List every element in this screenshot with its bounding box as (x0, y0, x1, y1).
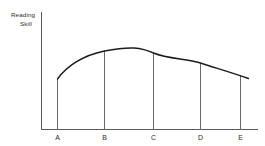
x-tick-label-d: D (198, 134, 203, 141)
x-tick-label-c: C (151, 134, 156, 141)
reading-skill-chart-figure: Reading Skill A B C D E (0, 0, 265, 146)
y-axis-label-line1: Reading (11, 11, 36, 18)
y-axis-label-line2: Skill (20, 20, 32, 27)
x-tick-label-e: E (238, 134, 243, 141)
x-tick-label-a: A (55, 134, 60, 141)
x-tick-label-b: B (102, 134, 107, 141)
chart-canvas: Reading Skill A B C D E (0, 0, 265, 146)
